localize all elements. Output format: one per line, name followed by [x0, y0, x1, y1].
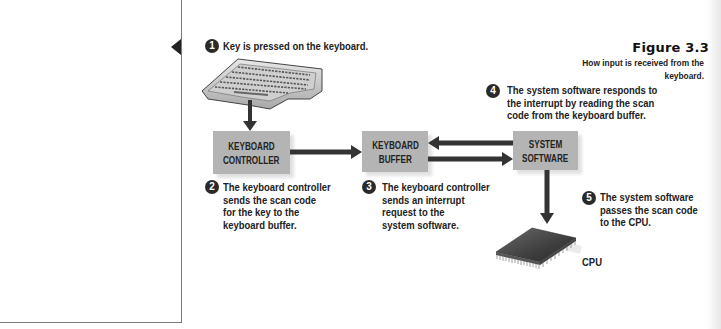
step-3-text: The keyboard controller sends an interru… — [382, 181, 490, 231]
figure-title: Figure 3.3 — [632, 40, 709, 55]
keyboard-buffer-box: KEYBOARDBUFFER — [362, 131, 428, 172]
page-edge-shadow — [707, 0, 721, 329]
step-2-badge: 2 — [205, 180, 219, 194]
arrow-down-to-controller — [243, 100, 257, 132]
system-software-label-1: SYSTEM — [529, 137, 562, 151]
arrow-buffer-to-software — [428, 152, 513, 166]
figure-caption: How input is received from the keyboard. — [563, 57, 704, 82]
arrow-software-to-cpu — [540, 170, 554, 225]
step-5-badge: 5 — [582, 191, 596, 205]
step-1-badge: 1 — [205, 39, 219, 53]
arrow-software-to-buffer — [428, 136, 513, 150]
arrow-controller-to-buffer — [290, 145, 362, 159]
keyboard-icon — [198, 55, 323, 113]
step-5-text: The system software passes the scan code… — [600, 191, 698, 229]
system-software-label-2: SOFTWARE — [522, 151, 568, 165]
cpu-chip-icon — [494, 222, 584, 272]
step-3-badge: 3 — [362, 180, 376, 194]
step-1-text: Key is pressed on the keyboard. — [223, 40, 368, 53]
figure-caption-panel — [0, 0, 182, 323]
keyboard-controller-label-1: KEYBOARD — [228, 139, 275, 153]
cpu-label: CPU — [582, 256, 602, 268]
keyboard-controller-box: KEYBOARDCONTROLLER — [213, 131, 290, 174]
step-4-text: The system software responds to the inte… — [507, 84, 657, 122]
figure-pointer-icon — [171, 39, 181, 55]
keyboard-buffer-label-2: BUFFER — [378, 152, 411, 166]
keyboard-controller-label-2: CONTROLLER — [223, 153, 279, 167]
step-2-text: The keyboard controller sends the scan c… — [223, 181, 331, 231]
step-4-badge: 4 — [486, 84, 500, 98]
keyboard-buffer-label-1: KEYBOARD — [372, 138, 419, 152]
system-software-box: SYSTEMSOFTWARE — [513, 131, 578, 170]
